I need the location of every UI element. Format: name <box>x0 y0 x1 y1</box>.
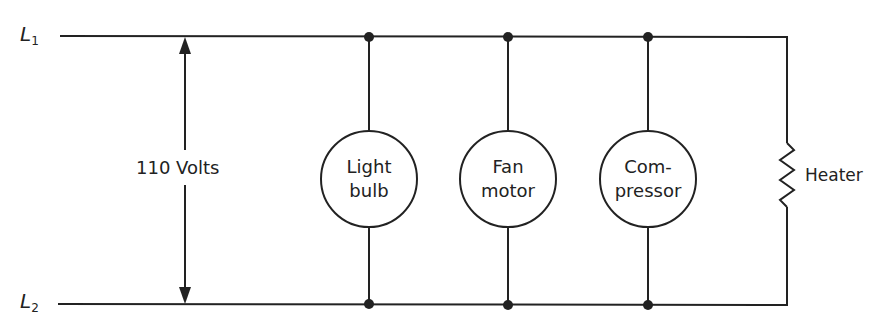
junction-dot <box>643 32 653 42</box>
junction-dot <box>364 32 374 42</box>
l2-line <box>58 304 788 305</box>
heater-label: Heater <box>805 165 863 185</box>
light-bulb-label: Lightbulb <box>321 155 417 203</box>
l2-label: L2 <box>20 291 39 318</box>
l1-label: L1 <box>20 24 39 51</box>
compressor-label: Com-pressor <box>600 155 696 203</box>
junction-dot <box>364 299 374 309</box>
voltage-label: 110 Volts <box>136 158 219 178</box>
junction-dot <box>643 300 653 310</box>
fan-motor-label: Fanmotor <box>460 155 556 203</box>
arrow-down-icon <box>179 287 191 304</box>
junction-dot <box>503 300 513 310</box>
l1-line <box>60 36 788 37</box>
junction-dot <box>503 32 513 42</box>
arrow-up-icon <box>179 37 191 54</box>
circuit-diagram: L1 L2 110 Volts Lightbulb Fanmotor Com-p… <box>0 0 884 330</box>
circuit-wires <box>0 0 884 330</box>
heater-resistor-symbol <box>780 143 794 207</box>
